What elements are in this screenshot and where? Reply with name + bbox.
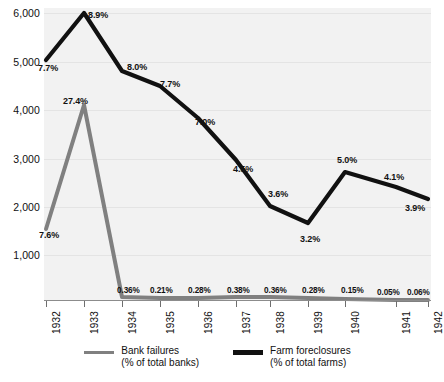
farm-label-1936: 7.0% (195, 117, 215, 127)
x-tick-1940 (345, 301, 346, 307)
bank-label-1939: 0.28% (302, 286, 325, 295)
bank-failures-line (46, 105, 428, 300)
bank-label-1941: 0.05% (377, 288, 400, 297)
bank-label-1942: 0.06% (407, 288, 430, 297)
farm-label-1935: 7.7% (160, 79, 180, 89)
x-tick-1935 (160, 301, 161, 307)
x-tick-1933 (84, 301, 85, 307)
farm-foreclosures-line (46, 13, 428, 223)
legend-label-bank-failures: Bank failures (% of total banks) (121, 345, 199, 368)
x-tick-1941 (396, 301, 397, 307)
farm-label-1940: 5.0% (337, 155, 357, 165)
legend-item-bank-failures: Bank failures (% of total banks) (84, 345, 199, 368)
legend-sublabel-farm-foreclosures: (% of total farms) (270, 357, 346, 368)
bank-label-1940: 0.15% (341, 286, 364, 295)
farm-label-1942: 3.9% (405, 203, 425, 213)
legend-name-farm-foreclosures: Farm foreclosures (270, 345, 351, 356)
x-tick-1936 (198, 301, 199, 307)
x-axis-label-1941: 1941 (401, 311, 412, 334)
x-axis-label-1940: 1940 (350, 311, 361, 334)
bank-label-1938: 0.36% (264, 286, 287, 295)
farm-label-1941: 4.1% (384, 172, 404, 182)
farm-label-1939: 3.2% (300, 234, 320, 244)
x-axis-label-1936: 1936 (203, 311, 214, 334)
bank-label-1933: 27.4% (63, 96, 88, 106)
x-tick-1942 (428, 301, 429, 307)
x-axis-label-1932: 1932 (51, 311, 62, 334)
bank-label-1937: 0.38% (227, 286, 250, 295)
legend-swatch-farm-foreclosures (233, 350, 263, 355)
bank-label-1934: 0.36% (117, 286, 140, 295)
x-axis-label-1938: 1938 (275, 311, 286, 334)
legend-name-bank-failures: Bank failures (121, 345, 179, 356)
x-tick-1937 (236, 301, 237, 307)
bank-label-1932: 7.6% (39, 230, 59, 240)
legend-item-farm-foreclosures: Farm foreclosures (% of total farms) (233, 345, 351, 368)
farm-label-1932: 7.7% (38, 63, 58, 73)
legend-swatch-bank-failures (84, 351, 114, 354)
legend-label-farm-foreclosures: Farm foreclosures (% of total farms) (270, 345, 351, 368)
bank-label-1936: 0.28% (188, 286, 211, 295)
x-axis-line (44, 300, 431, 301)
x-tick-1939 (308, 301, 309, 307)
bank-label-1935: 0.21% (150, 286, 173, 295)
x-axis-label-1939: 1939 (313, 311, 324, 334)
chart-legend: Bank failures (% of total banks) Farm fo… (0, 345, 435, 379)
farm-label-1934: 8.0% (127, 62, 147, 72)
x-axis-label-1933: 1933 (89, 311, 100, 334)
x-tick-1934 (122, 301, 123, 307)
x-tick-1932 (46, 301, 47, 307)
x-axis-label-1935: 1935 (165, 311, 176, 334)
x-tick-1938 (270, 301, 271, 307)
farm-label-1938: 3.6% (268, 189, 288, 199)
x-axis-label-1934: 1934 (127, 311, 138, 334)
farm-label-1937: 4.5% (233, 164, 253, 174)
x-axis-label-1942: 1942 (433, 311, 444, 334)
farm-label-1933: 8.9% (88, 10, 108, 20)
legend-sublabel-bank-failures: (% of total banks) (121, 357, 199, 368)
x-axis-label-1937: 1937 (241, 311, 252, 334)
